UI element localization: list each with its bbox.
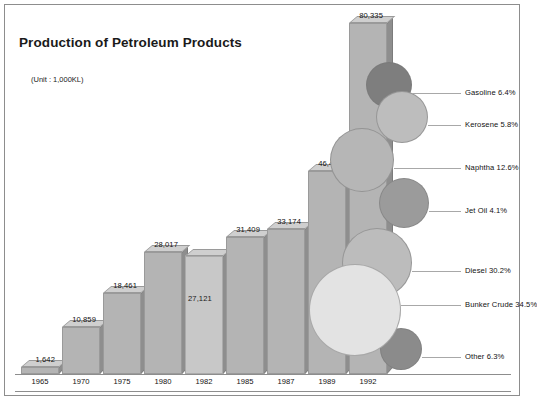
breakdown-bubbles: Gasoline 6.4%Kerosene 5.8%Naphtha 12.6%J… <box>5 5 521 397</box>
chart-frame: Production of Petroleum Products (Unit :… <box>4 4 520 396</box>
leader-line-jet-oil <box>429 211 461 212</box>
leader-line-bunker-crude <box>401 305 461 306</box>
legend-label-diesel: Diesel 30.2% <box>465 266 511 275</box>
leader-line-other <box>422 357 461 358</box>
bubble-bunker-crude[interactable] <box>309 264 401 356</box>
chart-plot-area: Production of Petroleum Products (Unit :… <box>5 5 521 397</box>
leader-line-naphtha <box>394 168 461 169</box>
legend-label-jet-oil: Jet Oil 4.1% <box>465 206 507 215</box>
legend-label-bunker-crude: Bunker Crude 34.5% <box>465 300 537 309</box>
leader-line-gasoline <box>412 93 461 94</box>
leader-line-kerosene <box>428 125 461 126</box>
bubble-kerosene[interactable] <box>376 91 428 143</box>
legend-label-gasoline: Gasoline 6.4% <box>465 88 516 97</box>
bubble-jet-oil[interactable] <box>379 178 429 228</box>
leader-line-diesel <box>412 271 461 272</box>
legend-label-kerosene: Kerosene 5.8% <box>465 120 518 129</box>
bubble-naphtha[interactable] <box>330 128 394 192</box>
legend-label-naphtha: Naphtha 12.6% <box>465 163 519 172</box>
legend-label-other: Other 6.3% <box>465 352 504 361</box>
